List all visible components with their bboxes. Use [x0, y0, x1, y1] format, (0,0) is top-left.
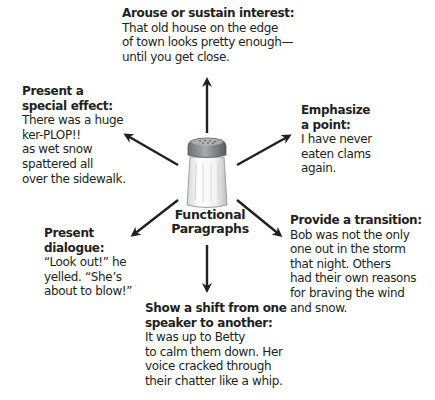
salt-shaker-icon	[187, 138, 227, 208]
example-line: until you get close.	[122, 50, 294, 65]
arrow-upper-left	[126, 135, 178, 165]
function-title: Provide a transition:	[290, 213, 422, 228]
function-present-dialogue: Present dialogue: “Look out!” he yelled.…	[44, 226, 132, 299]
function-provide-transition: Provide a transition: Bob was not the on…	[290, 213, 422, 315]
example-line: and snow.	[290, 301, 422, 316]
center-label-line2: Paragraphs	[170, 222, 250, 236]
function-title: special effect:	[22, 99, 126, 114]
function-title: dialogue:	[44, 241, 132, 256]
function-title: Emphasize	[301, 103, 372, 118]
example-line: There was a huge	[22, 113, 126, 128]
example-line: for braving the wind	[290, 286, 422, 301]
example-line: “Look out!” he	[44, 255, 132, 270]
function-title: Show a shift from one	[145, 301, 287, 316]
arrow-upper-right	[237, 136, 289, 165]
function-title: a point:	[301, 118, 372, 133]
example-line: voice cracked through	[145, 359, 287, 374]
function-special-effect: Present a special effect: There was a hu…	[22, 84, 126, 186]
example-line: yelled. “She’s	[44, 270, 132, 285]
center-label: Functional Paragraphs	[170, 208, 250, 236]
function-arouse-interest: Arouse or sustain interest: That old hou…	[122, 6, 294, 64]
example-line: of town looks pretty enough—	[122, 35, 294, 50]
example-line: ker-PLOP!!	[22, 128, 126, 143]
example-line: one out in the storm	[290, 242, 422, 257]
example-line: spattered all	[22, 157, 126, 172]
example-line: as wet snow	[22, 142, 126, 157]
example-line: about to blow!”	[44, 284, 132, 299]
function-title: Present	[44, 226, 132, 241]
example-line: Bob was not the only	[290, 228, 422, 243]
function-title: Present a	[22, 84, 126, 99]
example-line: that night. Others	[290, 257, 422, 272]
center-label-line1: Functional	[170, 208, 250, 222]
function-title: Arouse or sustain interest:	[122, 6, 294, 21]
example-line: over the sidewalk.	[22, 172, 126, 187]
function-emphasize-point: Emphasize a point: I have never eaten cl…	[301, 103, 372, 176]
example-line: again.	[301, 161, 372, 176]
example-line: to calm them down. Her	[145, 345, 287, 360]
example-line: I have never	[301, 132, 372, 147]
example-line: their chatter like a whip.	[145, 374, 287, 389]
function-title: speaker to another:	[145, 316, 287, 331]
example-line: had their own reasons	[290, 271, 422, 286]
example-line: That old house on the edge	[122, 21, 294, 36]
function-show-speaker-shift: Show a shift from one speaker to another…	[145, 301, 287, 389]
example-line: It was up to Betty	[145, 330, 287, 345]
example-line: eaten clams	[301, 147, 372, 162]
